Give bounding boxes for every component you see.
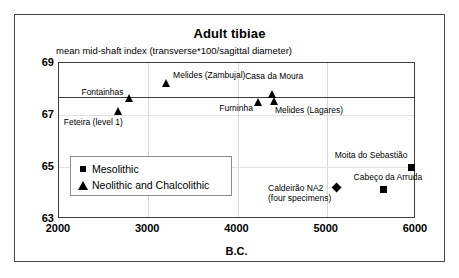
diamond-marker-icon <box>332 183 342 193</box>
triangle-marker-icon <box>125 94 133 102</box>
triangle-marker-icon <box>114 107 122 115</box>
chart-legend: MesolithicNeolithic and Chalcolithic <box>70 156 232 196</box>
square-marker-icon <box>408 164 415 171</box>
point-label: Caldeirão NA2(four specimens) <box>268 184 331 204</box>
y-tick-65: 65 <box>10 161 54 172</box>
legend-label: Mesolithic <box>92 163 139 175</box>
y-axis-tick-labels: 69676563 <box>8 62 54 218</box>
legend-label: Neolithic and Chalcolithic <box>92 179 209 191</box>
y-tick-69: 69 <box>10 57 54 68</box>
chart-subtitle: mean mid-shaft index (transverse*100/sag… <box>56 45 386 56</box>
point-label: Moita do Sebastião <box>335 151 408 161</box>
y-tick-67: 67 <box>10 109 54 120</box>
x-tick-6000: 6000 <box>385 222 445 234</box>
gridline-vertical-4000 <box>238 63 239 217</box>
x-tick-2000: 2000 <box>28 222 88 234</box>
triangle-glyph <box>78 181 88 190</box>
legend-item-square: Mesolithic <box>77 161 139 177</box>
square-glyph <box>80 166 86 172</box>
triangle-legend-icon <box>77 178 91 192</box>
triangle-marker-icon <box>270 97 278 105</box>
point-label-line2: (four specimens) <box>268 194 331 204</box>
square-legend-icon <box>77 162 91 176</box>
triangle-marker-icon <box>162 79 170 87</box>
x-axis-tick-labels: 20003000400050006000 <box>58 222 415 238</box>
x-tick-4000: 4000 <box>207 222 267 234</box>
point-label: Feteira (level 1) <box>64 118 123 128</box>
point-label: Cabeço da Arruda <box>354 173 423 183</box>
point-label: Fontainhas <box>81 88 123 98</box>
point-label: Furninha <box>219 104 253 114</box>
point-label: Casa da Moura <box>245 72 303 82</box>
point-label: Melides (Zambujal) <box>173 71 245 81</box>
x-tick-3000: 3000 <box>117 222 177 234</box>
gridline-horizontal-67 <box>59 115 414 116</box>
x-tick-5000: 5000 <box>296 222 356 234</box>
legend-item-triangle: Neolithic and Chalcolithic <box>77 177 209 193</box>
point-label: Melides (Lagares) <box>275 106 343 116</box>
x-axis-label: B.C. <box>58 245 415 257</box>
chart-figure: Adult tibiae mean mid-shaft index (trans… <box>0 0 459 278</box>
square-marker-icon <box>380 186 387 193</box>
triangle-marker-icon <box>254 98 262 106</box>
chart-title: Adult tibiae <box>0 26 459 41</box>
